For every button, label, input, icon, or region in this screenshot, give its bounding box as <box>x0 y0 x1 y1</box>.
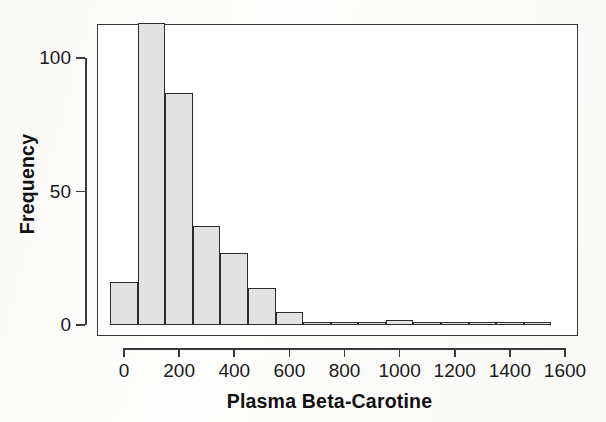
y-axis-tick <box>76 191 85 193</box>
histogram-bar <box>413 322 441 325</box>
histogram-bar <box>165 93 193 325</box>
x-axis-label: Plasma Beta-Carotine <box>227 390 433 413</box>
y-axis-line <box>85 58 87 325</box>
histogram-bar <box>138 23 166 325</box>
x-axis-tick <box>509 348 511 357</box>
histogram-bar <box>386 320 414 325</box>
histogram-bar <box>524 322 552 325</box>
x-axis-tick-label: 1200 <box>434 360 476 382</box>
x-axis-tick <box>123 348 125 357</box>
y-axis-tick <box>76 57 85 59</box>
histogram-bar <box>358 322 386 325</box>
histogram-bar <box>441 322 469 325</box>
y-axis-tick-label: 0 <box>0 314 71 336</box>
histogram-bar <box>469 322 497 325</box>
x-axis-tick <box>564 348 566 357</box>
x-axis-tick-label: 600 <box>274 360 306 382</box>
x-axis-tick <box>178 348 180 357</box>
x-axis-tick-label: 800 <box>329 360 361 382</box>
histogram-bar <box>496 322 524 325</box>
histogram-bar <box>276 312 304 325</box>
x-axis-tick-label: 1600 <box>544 360 586 382</box>
y-axis-label: Frequency <box>16 134 39 234</box>
x-axis-tick <box>233 348 235 357</box>
histogram-bar <box>110 282 138 325</box>
x-axis-tick <box>399 348 401 357</box>
x-axis-tick-label: 1000 <box>378 360 420 382</box>
histogram-bar <box>220 253 248 325</box>
x-axis-tick-label: 400 <box>218 360 250 382</box>
histogram-bar <box>193 226 221 325</box>
x-axis-tick <box>454 348 456 357</box>
x-axis-tick <box>289 348 291 357</box>
x-axis-tick-label: 0 <box>119 360 130 382</box>
histogram-bar <box>303 322 331 325</box>
x-axis-tick-label: 200 <box>163 360 195 382</box>
y-axis-tick-label: 100 <box>0 47 71 69</box>
histogram-bar <box>331 322 359 325</box>
histogram-figure: 02004006008001000120014001600050100 Plas… <box>0 0 606 422</box>
x-axis-tick-label: 1400 <box>489 360 531 382</box>
y-axis-tick <box>76 324 85 326</box>
x-axis-tick <box>344 348 346 357</box>
histogram-bar <box>248 288 276 325</box>
